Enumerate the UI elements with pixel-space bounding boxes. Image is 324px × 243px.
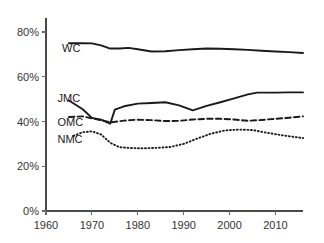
chart-canvas: 0%20%40%60%80% 196019701980199020002010 …	[0, 0, 324, 243]
series-label-nmc: NMC	[58, 133, 83, 145]
chart-background	[0, 0, 324, 243]
x-tick-label: 1970	[80, 219, 104, 231]
x-tick-label: 2000	[217, 219, 241, 231]
x-tick-label: 1960	[34, 219, 58, 231]
x-tick-label: 2010	[263, 219, 287, 231]
y-tick-label: 80%	[17, 26, 39, 38]
series-label-wc: WC	[62, 42, 80, 54]
y-tick-label: 20%	[17, 160, 39, 172]
series-label-omc: OMC	[58, 116, 84, 128]
y-tick-label: 60%	[17, 71, 39, 83]
y-tick-label: 40%	[17, 116, 39, 128]
series-label-jmc: JMC	[58, 92, 81, 104]
x-tick-label: 1990	[171, 219, 195, 231]
line-chart: 0%20%40%60%80% 196019701980199020002010 …	[0, 0, 324, 243]
x-tick-label: 1980	[126, 219, 150, 231]
y-tick-label: 0%	[23, 205, 39, 217]
